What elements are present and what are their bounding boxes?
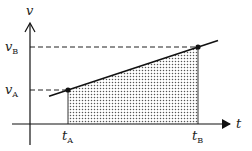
v-axis-label: v [26,3,34,18]
vt-diagram: v t vB vA tA tB [0,0,252,151]
shaded-area [68,47,198,124]
t-a-label: tA [62,128,73,145]
v-a-sub: A [11,90,18,99]
t-axis-arrow-icon [222,119,231,129]
point-b [195,44,200,49]
t-axis-label: t [236,116,242,131]
v-a-label: vA [5,82,18,99]
t-b-sub: B [197,136,203,145]
v-b-label: vB [5,39,18,56]
t-b-label: tB [192,128,203,145]
t-a-sub: A [66,136,73,145]
v-b-sub: B [12,47,18,56]
point-a [65,87,70,92]
